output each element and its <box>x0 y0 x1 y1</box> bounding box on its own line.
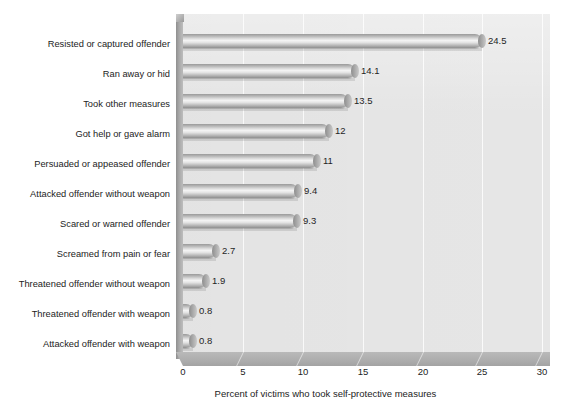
bar-value-label: 0.8 <box>199 334 212 348</box>
category-label: Took other measures <box>0 99 170 109</box>
category-label: Persuaded or appeased offender <box>0 159 170 169</box>
category-label: Scared or warned offender <box>0 219 170 229</box>
x-axis-title-text: Percent of victims who took self-protect… <box>215 388 437 399</box>
bar-value-label: 1.9 <box>212 274 225 288</box>
bar-value-label: 9.4 <box>304 184 317 198</box>
bar-value-label: 2.7 <box>222 244 235 258</box>
x-tick-label: 5 <box>240 366 245 377</box>
bar-value-label: 24.5 <box>488 34 507 48</box>
bar-value-label: 12 <box>335 124 346 138</box>
x-tick-label: 25 <box>477 366 488 377</box>
bar-value-label: 9.3 <box>303 214 316 228</box>
bars: 24.5 14.1 13.5 12 11 9.4 9.3 2.7 1.9 0.8… <box>176 14 550 366</box>
bar-took-other-measures <box>183 94 348 108</box>
category-label: Attacked offender with weapon <box>0 339 170 349</box>
category-label: Screamed from pain or fear <box>0 249 170 259</box>
category-label: Threatened offender without weapon <box>0 279 170 289</box>
bar-screamed-from-pain-or-fear <box>183 244 216 258</box>
bar-got-help-or-gave-alarm <box>183 124 329 138</box>
bar-threatened-offender-without-weapon <box>183 274 206 288</box>
x-tick-label: 10 <box>298 366 309 377</box>
bar-attacked-offender-with-weapon <box>183 334 193 348</box>
bar-scared-or-warned-offender <box>183 214 297 228</box>
x-tick-label: 0 <box>180 366 185 377</box>
category-label: Got help or gave alarm <box>0 129 170 139</box>
x-tick-label: 30 <box>537 366 548 377</box>
bar-persuaded-or-appeased-offender <box>183 154 317 168</box>
bar-threatened-offender-with-weapon <box>183 304 193 318</box>
bar-resisted-or-captured-offender <box>183 34 482 48</box>
bar-value-label: 0.8 <box>199 304 212 318</box>
bar-chart: Resisted or captured offender Ran away o… <box>0 0 563 418</box>
category-axis-labels: Resisted or captured offender Ran away o… <box>0 16 176 356</box>
x-tick-label: 20 <box>418 366 429 377</box>
bar-value-label: 14.1 <box>361 64 380 78</box>
bar-ran-away-or-hid <box>183 64 355 78</box>
x-axis-ticks: 0 5 10 15 20 25 30 <box>176 366 556 382</box>
bar-attacked-offender-without-weapon <box>183 184 298 198</box>
category-label: Resisted or captured offender <box>0 39 170 49</box>
bar-value-label: 11 <box>323 154 333 168</box>
plot-area: 24.5 14.1 13.5 12 11 9.4 9.3 2.7 1.9 0.8… <box>176 14 550 366</box>
category-label: Attacked offender without weapon <box>0 189 170 199</box>
x-axis-title: Percent of victims who took self-protect… <box>0 388 563 399</box>
x-tick-label: 15 <box>358 366 369 377</box>
category-label: Ran away or hid <box>0 69 170 79</box>
category-label: Threatened offender with weapon <box>0 309 170 319</box>
bar-value-label: 13.5 <box>354 94 373 108</box>
